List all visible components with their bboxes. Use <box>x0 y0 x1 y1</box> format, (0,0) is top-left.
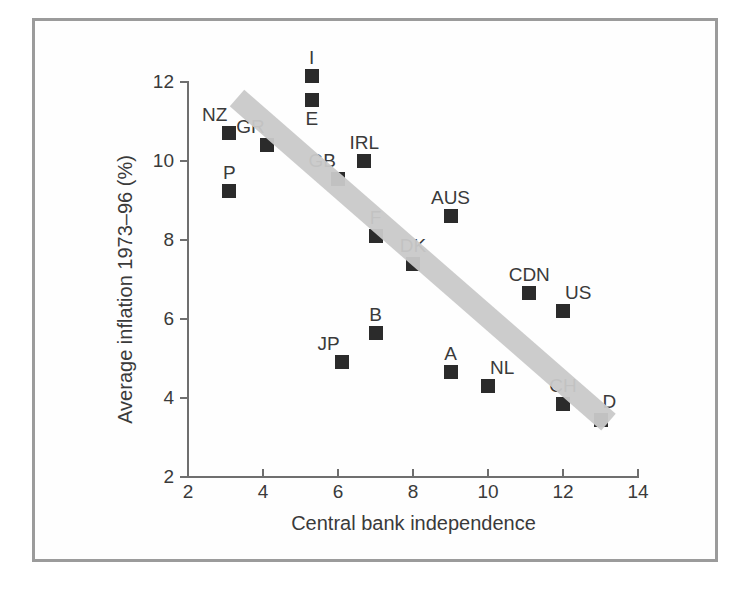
y-tick-label-2: 2 <box>163 466 174 488</box>
point-label-i: I <box>309 48 314 67</box>
scatter-plot: 2468101214 12108642 NZPGRIEGBIRLJPBFDKAU… <box>0 0 740 592</box>
x-tick-label-6: 6 <box>333 481 344 503</box>
y-axis-line <box>187 81 189 477</box>
y-tick-label-8: 8 <box>163 229 174 251</box>
marker-square <box>222 184 236 198</box>
point-label-a: A <box>444 344 457 363</box>
x-axis-title: Central bank independence <box>188 512 639 535</box>
point-label-irl: IRL <box>349 133 379 152</box>
marker-square <box>222 126 236 140</box>
x-tick-12 <box>562 469 564 477</box>
x-tick-14 <box>637 469 639 477</box>
marker-square <box>444 365 458 379</box>
marker-square <box>444 209 458 223</box>
x-tick-4 <box>262 469 264 477</box>
marker-square <box>369 326 383 340</box>
marker-square <box>305 93 319 107</box>
point-label-nl: NL <box>490 358 514 377</box>
y-tick-8 <box>180 239 188 241</box>
y-tick-6 <box>180 318 188 320</box>
x-tick-label-4: 4 <box>258 481 269 503</box>
marker-square <box>335 355 349 369</box>
y-tick-4 <box>180 397 188 399</box>
x-tick-label-14: 14 <box>627 481 648 503</box>
point-label-aus: AUS <box>431 188 470 207</box>
marker-square <box>305 69 319 83</box>
trend-band <box>230 90 616 430</box>
x-tick-label-8: 8 <box>408 481 419 503</box>
y-tick-2 <box>180 476 188 478</box>
x-tick-6 <box>337 469 339 477</box>
y-tick-label-12: 12 <box>153 71 174 93</box>
point-label-e: E <box>305 109 318 128</box>
y-tick-12 <box>180 81 188 83</box>
x-tick-label-2: 2 <box>183 481 194 503</box>
y-tick-10 <box>180 160 188 162</box>
x-tick-label-10: 10 <box>477 481 498 503</box>
x-tick-8 <box>412 469 414 477</box>
x-tick-10 <box>487 469 489 477</box>
point-label-b: B <box>369 305 382 324</box>
x-tick-label-12: 12 <box>552 481 573 503</box>
marker-square <box>357 154 371 168</box>
y-tick-label-10: 10 <box>153 150 174 172</box>
marker-square <box>556 304 570 318</box>
point-label-nz: NZ <box>202 105 227 124</box>
point-label-us: US <box>565 283 591 302</box>
y-tick-label-4: 4 <box>163 387 174 409</box>
marker-square <box>522 286 536 300</box>
point-label-p: P <box>223 163 236 182</box>
point-label-cdn: CDN <box>509 265 550 284</box>
marker-square <box>481 379 495 393</box>
point-label-jp: JP <box>318 334 340 353</box>
y-tick-label-6: 6 <box>163 308 174 330</box>
y-axis-title: Average inflation 1973–96 (%) <box>114 90 137 490</box>
y-axis-tick-labels: 12108642 <box>130 0 174 592</box>
